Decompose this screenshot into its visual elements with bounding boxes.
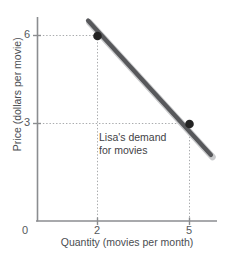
data-point-5-3 <box>185 120 194 129</box>
annotation-line-2: for movies <box>99 144 191 157</box>
y-axis-title: Price (dollars per movie) <box>12 24 23 164</box>
x-axis-title: Quantity (movies per month) <box>37 237 217 248</box>
y-axis-tick-label-3: 3 <box>24 117 30 128</box>
x-axis-tick-label-2: 2 <box>94 225 100 236</box>
x-axis-tick-label-5: 5 <box>186 225 192 236</box>
x-axis-tick-label-0: 0 <box>22 225 28 236</box>
demand-curve-chart: 6 3 0 2 5 Price (dollars per movie) Quan… <box>0 0 226 259</box>
y-axis-tick-label-6: 6 <box>24 29 30 40</box>
demand-curve-annotation: Lisa's demand for movies <box>99 131 191 156</box>
data-point-2-6 <box>93 32 102 41</box>
plot-area <box>0 0 226 259</box>
annotation-line-1: Lisa's demand <box>99 131 191 144</box>
